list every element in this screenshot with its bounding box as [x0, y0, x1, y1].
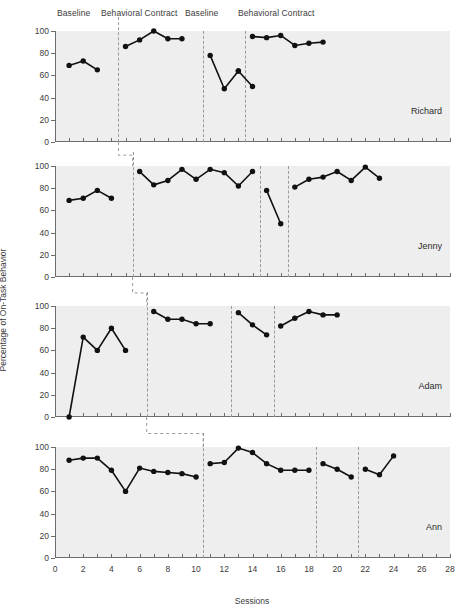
y-tick-label: 60 — [40, 70, 49, 80]
data-point — [95, 348, 100, 353]
data-point — [179, 471, 184, 476]
data-point — [207, 167, 212, 172]
data-point — [151, 309, 156, 314]
subject-label-jenny: Jenny — [418, 241, 442, 251]
y-tick-label: 40 — [40, 93, 49, 103]
connector-path — [118, 142, 132, 166]
y-tick-label: 60 — [40, 205, 49, 215]
x-tick-label: 20 — [332, 564, 341, 574]
x-tick-label: 26 — [417, 564, 426, 574]
x-tick-label: 24 — [389, 564, 398, 574]
y-tick-label: 20 — [40, 531, 49, 541]
phase-header-1: Baseline — [57, 8, 90, 18]
x-tick-label: 10 — [191, 564, 200, 574]
series-line — [365, 456, 393, 475]
data-point — [349, 178, 354, 183]
series-line — [69, 328, 125, 417]
data-point — [278, 323, 283, 328]
y-axis-label: Percentage of On-Task Behavior — [0, 249, 8, 372]
data-point — [222, 170, 227, 175]
data-point — [179, 317, 184, 322]
y-tick-label: 100 — [35, 161, 49, 171]
data-point — [179, 36, 184, 41]
y-tick — [51, 277, 55, 278]
data-point — [391, 453, 396, 458]
data-point — [292, 43, 297, 48]
data-point — [207, 321, 212, 326]
data-point — [236, 310, 241, 315]
data-point — [165, 178, 170, 183]
series-line — [238, 71, 252, 87]
x-tick-label: 8 — [165, 564, 170, 574]
data-point — [123, 44, 128, 49]
data-point — [222, 86, 227, 91]
subject-label-ann: Ann — [426, 522, 442, 532]
data-point — [363, 467, 368, 472]
data-point — [81, 195, 86, 200]
x-tick-label: 6 — [137, 564, 142, 574]
x-tick-label: 22 — [361, 564, 370, 574]
data-point — [66, 63, 71, 68]
data-point — [264, 35, 269, 40]
data-point — [292, 184, 297, 189]
phase-connector — [0, 142, 472, 166]
figure-root: BaselineBehavioral ContractBaselineBehav… — [0, 0, 472, 615]
y-tick-label: 40 — [40, 228, 49, 238]
y-tick-label: 0 — [44, 553, 49, 563]
data-point — [278, 221, 283, 226]
data-point — [306, 309, 311, 314]
data-point — [292, 316, 297, 321]
y-tick-label: 20 — [40, 250, 49, 260]
y-tick — [51, 417, 55, 418]
x-tick — [450, 138, 451, 142]
data-point — [349, 474, 354, 479]
data-point — [334, 467, 339, 472]
data-point — [66, 198, 71, 203]
y-tick-label: 0 — [44, 137, 49, 147]
data-point — [165, 36, 170, 41]
panel-jenny: 020406080100Jenny — [55, 166, 450, 277]
data-point — [109, 468, 114, 473]
y-tick-label: 100 — [35, 442, 49, 452]
data-point — [222, 460, 227, 465]
series-line — [69, 190, 111, 200]
data-point — [264, 461, 269, 466]
series-line — [267, 190, 281, 223]
data-point — [320, 174, 325, 179]
data-point — [193, 474, 198, 479]
connector-path — [133, 277, 147, 306]
data-point — [320, 461, 325, 466]
data-point — [292, 468, 297, 473]
y-tick-label: 60 — [40, 486, 49, 496]
y-tick-label: 0 — [44, 412, 49, 422]
data-point — [123, 489, 128, 494]
x-tick-label: 28 — [445, 564, 454, 574]
x-tick-label: 0 — [53, 564, 58, 574]
data-series — [55, 447, 450, 558]
data-point — [377, 176, 382, 181]
x-axis-label: Sessions — [235, 596, 270, 606]
data-series — [55, 31, 450, 142]
data-point — [109, 195, 114, 200]
data-point — [193, 177, 198, 182]
y-tick-label: 20 — [40, 390, 49, 400]
series-line — [69, 458, 196, 491]
data-point — [109, 326, 114, 331]
data-point — [165, 317, 170, 322]
data-point — [207, 53, 212, 58]
data-point — [278, 468, 283, 473]
data-point — [81, 334, 86, 339]
series-line — [210, 55, 238, 88]
phase-connector — [0, 277, 472, 306]
x-tick-label: 14 — [248, 564, 257, 574]
data-point — [207, 461, 212, 466]
y-tick-label: 40 — [40, 368, 49, 378]
data-point — [250, 450, 255, 455]
y-tick-label: 100 — [35, 301, 49, 311]
series-line — [253, 35, 324, 45]
subject-label-richard: Richard — [411, 106, 442, 116]
y-tick-label: 80 — [40, 323, 49, 333]
data-point — [334, 169, 339, 174]
x-tick — [450, 413, 451, 417]
y-tick-label: 100 — [35, 26, 49, 36]
